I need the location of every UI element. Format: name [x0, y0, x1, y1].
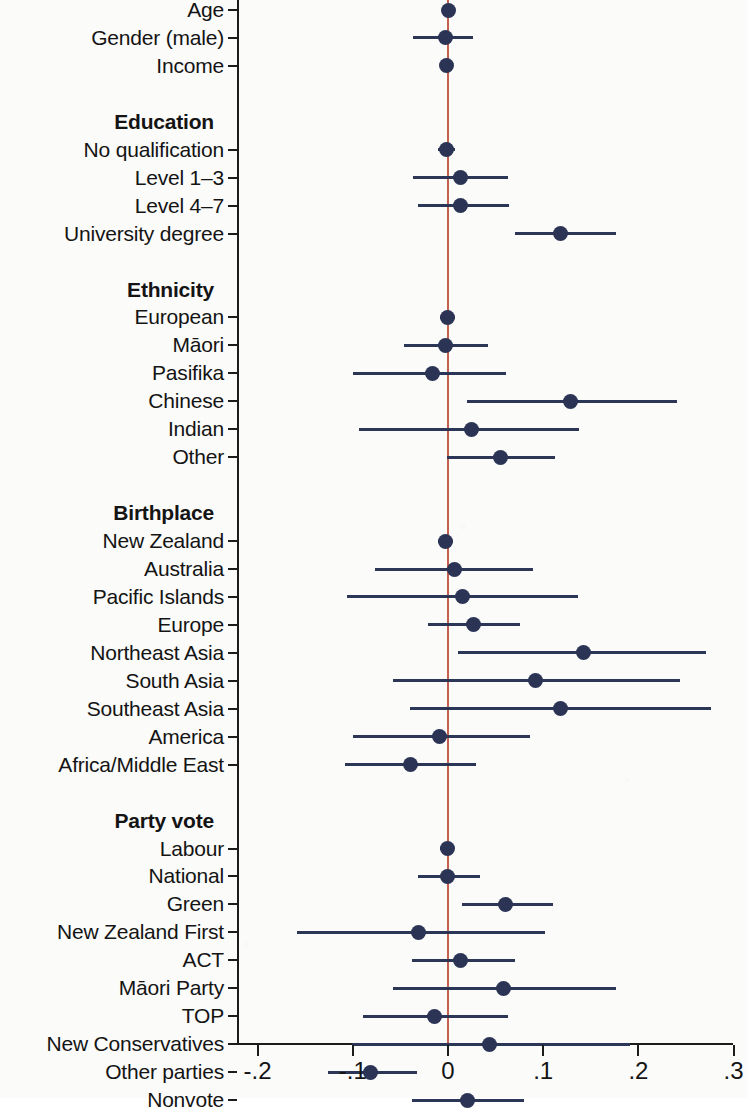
y-axis-tick: [228, 596, 237, 598]
estimate-point-marker: [447, 562, 462, 577]
y-axis-tick: [228, 400, 237, 402]
y-axis-tick: [228, 959, 237, 961]
estimate-point-marker: [425, 366, 440, 381]
y-axis-tick: [228, 344, 237, 346]
row-label: Africa/Middle East: [58, 754, 224, 775]
x-axis-tick: [542, 1045, 544, 1056]
x-axis-tick: [733, 1045, 735, 1056]
estimate-point-marker: [439, 142, 454, 157]
x-axis-tick: [257, 1045, 259, 1056]
estimate-point-marker: [528, 673, 543, 688]
estimate-point-marker: [460, 1093, 475, 1108]
y-axis-tick: [228, 652, 237, 654]
row-label: Pacific Islands: [93, 586, 224, 607]
y-axis-tick: [228, 316, 237, 318]
y-axis-tick: [228, 987, 237, 989]
y-axis-tick: [228, 149, 237, 151]
y-axis-tick: [228, 9, 237, 11]
estimate-point-marker: [439, 58, 454, 73]
group-heading: Education: [114, 111, 214, 132]
y-axis-tick: [228, 624, 237, 626]
estimate-point-marker: [453, 198, 468, 213]
y-axis-tick: [228, 65, 237, 67]
row-label: New Zealand: [102, 530, 224, 551]
row-label: Labour: [160, 838, 224, 859]
estimate-point-marker: [411, 925, 426, 940]
row-label: Green: [167, 893, 224, 914]
estimate-point-marker: [496, 981, 511, 996]
estimate-point-marker: [563, 394, 578, 409]
estimate-point-marker: [438, 534, 453, 549]
estimate-point-marker: [403, 757, 418, 772]
estimate-point-marker: [466, 617, 481, 632]
x-axis-tick: [352, 1045, 354, 1056]
y-axis-tick: [228, 903, 237, 905]
row-label: America: [148, 726, 224, 747]
y-axis-tick: [228, 372, 237, 374]
estimate-point-marker: [440, 310, 455, 325]
y-axis-tick: [228, 177, 237, 179]
estimate-point-marker: [441, 3, 456, 18]
row-label: New Zealand First: [57, 921, 224, 942]
row-label: Europe: [157, 614, 224, 635]
estimate-point-marker: [440, 841, 455, 856]
row-label: Australia: [144, 558, 224, 579]
estimate-point-marker: [432, 729, 447, 744]
group-heading: Birthplace: [113, 502, 214, 523]
y-axis-tick: [228, 736, 237, 738]
y-axis-tick: [228, 680, 237, 682]
y-axis-tick: [228, 848, 237, 850]
estimate-point-marker: [553, 701, 568, 716]
row-label: New Conservatives: [47, 1033, 225, 1054]
row-label: European: [135, 306, 224, 327]
y-axis-tick: [228, 1015, 237, 1017]
x-axis-tick-label: .3: [724, 1058, 744, 1084]
y-axis-tick: [228, 428, 237, 430]
row-label: University degree: [64, 223, 224, 244]
row-label: Pasifika: [152, 362, 224, 383]
row-label: Indian: [168, 418, 224, 439]
row-label: Age: [187, 0, 224, 20]
x-axis-tick: [637, 1045, 639, 1056]
estimate-point-marker: [493, 450, 508, 465]
y-axis-tick: [228, 540, 237, 542]
group-heading: Party vote: [114, 810, 214, 831]
estimate-point-marker: [553, 226, 568, 241]
x-axis-tick-label: -.2: [244, 1058, 272, 1084]
y-axis-tick: [228, 205, 237, 207]
estimate-point-marker: [453, 953, 468, 968]
row-label: Māori: [172, 334, 224, 355]
y-axis-tick: [228, 708, 237, 710]
row-label: Chinese: [148, 390, 224, 411]
estimate-point-marker: [440, 869, 455, 884]
y-axis-tick: [228, 931, 237, 933]
estimate-point-marker: [438, 338, 453, 353]
estimate-point-marker: [464, 422, 479, 437]
y-axis-tick: [228, 233, 237, 235]
row-label: South Asia: [126, 670, 224, 691]
y-axis-tick: [228, 1099, 237, 1101]
row-label: Level 4–7: [135, 195, 224, 216]
y-axis-tick: [228, 1071, 237, 1073]
estimate-point-marker: [427, 1009, 442, 1024]
row-label: Nonvote: [147, 1089, 224, 1110]
row-label: Southeast Asia: [87, 698, 224, 719]
x-axis-tick-label: .1: [533, 1058, 553, 1084]
estimate-point-marker: [453, 170, 468, 185]
row-label: Māori Party: [119, 977, 224, 998]
estimate-point-marker: [576, 645, 591, 660]
row-label: National: [149, 865, 224, 886]
x-axis-tick: [447, 1045, 449, 1056]
y-axis-line: [237, 0, 239, 1045]
y-axis-tick: [228, 456, 237, 458]
x-axis-tick-label: -.1: [339, 1058, 367, 1084]
row-label: Level 1–3: [135, 167, 224, 188]
y-axis-tick: [228, 568, 237, 570]
estimate-point-marker: [438, 30, 453, 45]
row-label: Gender (male): [91, 27, 224, 48]
estimate-point-marker: [482, 1037, 497, 1052]
row-label: Other: [172, 446, 224, 467]
y-axis-tick: [228, 875, 237, 877]
estimate-point-marker: [498, 897, 513, 912]
